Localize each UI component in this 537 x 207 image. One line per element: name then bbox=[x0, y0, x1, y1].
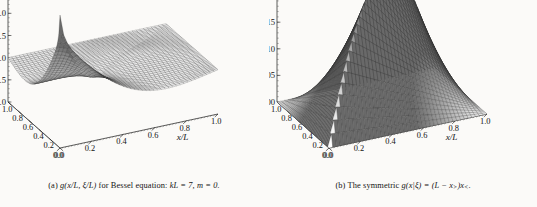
tick-label-xi: 0.6 bbox=[292, 123, 302, 132]
plot-area-b: 0.00.20.40.60.81.00.00.20.40.60.81.00.00… bbox=[269, 0, 537, 178]
tick-label-x: 1.0 bbox=[480, 117, 490, 126]
tick-label-x: 0.2 bbox=[85, 144, 95, 153]
tick-label-z: 1.0 bbox=[0, 8, 6, 18]
tick-label-x: 1.0 bbox=[211, 117, 221, 126]
tick-label-z: 0.5 bbox=[0, 31, 6, 41]
tick-label-xi: 0.8 bbox=[281, 114, 291, 123]
tick-label-x: 0.2 bbox=[354, 144, 364, 153]
surface-plot-a: 0.00.20.40.60.81.00.00.20.40.60.81.0-1.0… bbox=[0, 0, 268, 178]
caption-a-function: g(x/L, ξ/L) bbox=[60, 181, 96, 190]
plot-area-a: 0.00.20.40.60.81.00.00.20.40.60.81.0-1.0… bbox=[0, 0, 268, 178]
tick-label-xi: 0.2 bbox=[313, 141, 323, 150]
tick-label-z: -0.5 bbox=[0, 75, 6, 85]
panel-b-symmetric-green: 0.00.20.40.60.81.00.00.20.40.60.81.00.00… bbox=[269, 0, 537, 207]
caption-a-middle: for Bessel equation: bbox=[99, 181, 168, 190]
caption-a-param-m: m = 0. bbox=[197, 181, 220, 190]
tick-label-x: 0.6 bbox=[148, 131, 158, 140]
axis-label-x: x/L bbox=[176, 132, 189, 142]
figure-two-panel-surfaces: 0.00.20.40.60.81.00.00.20.40.60.81.0-1.0… bbox=[0, 0, 537, 207]
tick-label-xi: 0.2 bbox=[44, 141, 54, 150]
panel-a-bessel-green: 0.00.20.40.60.81.00.00.20.40.60.81.0-1.0… bbox=[0, 0, 268, 207]
tick-label-z: 0.10 bbox=[269, 44, 275, 54]
tick-x-minor bbox=[59, 148, 61, 149]
tick-label-xi: 0.0 bbox=[54, 151, 64, 160]
tick-label-xi: 0.8 bbox=[12, 114, 22, 123]
caption-b-function: g(x|ξ) = (L − x bbox=[402, 181, 454, 190]
caption-a-param-kl: kL = 7, bbox=[170, 181, 195, 190]
tick-label-z: 0.05 bbox=[269, 70, 275, 80]
caption-b-period: . bbox=[468, 181, 470, 190]
tick-label-z: 0.15 bbox=[269, 17, 275, 27]
tick-label-x: 0.4 bbox=[385, 137, 396, 146]
caption-a-label: (a) bbox=[48, 181, 58, 190]
surface-plot-b: 0.00.20.40.60.81.00.00.20.40.60.81.00.00… bbox=[269, 0, 537, 178]
tick-label-xi: 0.0 bbox=[323, 151, 333, 160]
tick-label-x: 0.6 bbox=[417, 131, 427, 140]
axis-label-x: x/L bbox=[445, 132, 458, 142]
tick-label-x: 0.4 bbox=[116, 137, 127, 146]
tick-label-xi: 0.4 bbox=[302, 132, 313, 141]
tick-label-z: -1.0 bbox=[0, 97, 6, 107]
tick-label-z: 0.00 bbox=[269, 97, 275, 107]
caption-a: (a) g(x/L, ξ/L) for Bessel equation: kL … bbox=[0, 181, 268, 190]
caption-b-middle: The symmetric bbox=[348, 181, 400, 190]
tick-label-z: 0.0 bbox=[0, 53, 6, 63]
surface-mesh bbox=[8, 15, 218, 91]
caption-b: (b) The symmetric g(x|ξ) = (L − x>)x<. bbox=[269, 181, 537, 190]
tick-label-xi: 0.6 bbox=[23, 123, 33, 132]
tick-x-minor bbox=[328, 148, 330, 149]
tick-label-z: 0.20 bbox=[269, 0, 275, 1]
tick-label-xi: 0.4 bbox=[33, 132, 44, 141]
caption-b-label: (b) bbox=[335, 181, 345, 190]
